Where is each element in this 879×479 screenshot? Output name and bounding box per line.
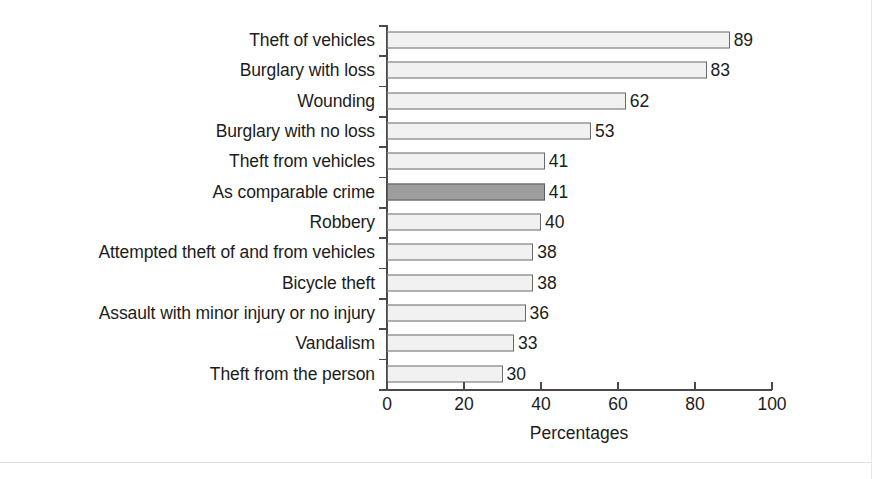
x-axis-tick [386, 382, 388, 390]
page-rule-bottom [0, 462, 872, 463]
x-axis-tick-label: 0 [382, 394, 392, 415]
x-axis-tick [463, 382, 465, 390]
x-axis-tick [617, 382, 619, 390]
x-axis-tick [694, 382, 696, 390]
x-axis-tick [540, 382, 542, 390]
x-axis-tick [771, 382, 773, 390]
x-axis-tick-label: 60 [608, 394, 627, 415]
x-axis-tick-label: 20 [454, 394, 473, 415]
horizontal-bar-chart: Theft of vehicles89Burglary with loss83W… [0, 0, 879, 479]
page-rule-right [871, 0, 872, 479]
x-axis-tick-label: 100 [757, 394, 786, 415]
chart-page: Theft of vehicles89Burglary with loss83W… [0, 0, 879, 479]
x-axis-tick-label: 40 [531, 394, 550, 415]
x-axis-title: Percentages [530, 423, 628, 444]
x-axis-tick-label: 80 [685, 394, 704, 415]
x-axis-ticks: 020406080100 [0, 0, 879, 479]
